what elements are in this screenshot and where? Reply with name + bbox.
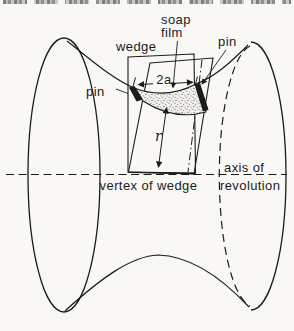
lower-profile-curve [65, 255, 249, 311]
soap-film-pointer [173, 41, 178, 88]
left-pin-pointer [116, 89, 128, 94]
right-rim-front-edge [251, 42, 286, 310]
catenoid-wedge-diagram: wedge soap film pin pin 2a r vertex of w… [0, 0, 294, 331]
label-revolution: revolution [220, 178, 280, 193]
upper-profile-curve-right [196, 45, 248, 84]
dimension-tick-left [133, 78, 136, 87]
label-vertex-of-wedge: vertex of wedge [100, 178, 198, 193]
dimension-arrow-left [139, 84, 154, 85]
radius-arrow-upper [163, 108, 167, 136]
label-wedge: wedge [115, 39, 156, 54]
right-rim-hidden-edge [219, 46, 250, 306]
label-pin-top-right: pin [218, 34, 237, 49]
book-page-figure: wedge soap film pin pin 2a r vertex of w… [0, 0, 294, 331]
dimension-arrow-right [176, 82, 193, 83]
label-film: film [161, 25, 183, 40]
label-axis-of: axis of [224, 160, 264, 175]
right-pin-pointer [202, 50, 226, 84]
label-pin-left: pin [86, 84, 105, 99]
label-2a: 2a [156, 72, 172, 87]
